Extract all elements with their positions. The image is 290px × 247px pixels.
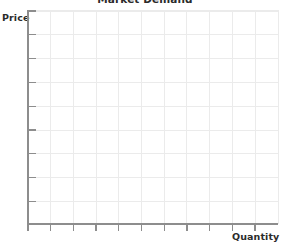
market-demand-chart: Market Demand Price Quantity [0,0,290,247]
grid-lines [28,10,278,224]
y-axis-ticks [28,11,36,201]
axis-lines [28,10,278,224]
x-axis-ticks [28,224,255,231]
plot-area [0,0,290,247]
